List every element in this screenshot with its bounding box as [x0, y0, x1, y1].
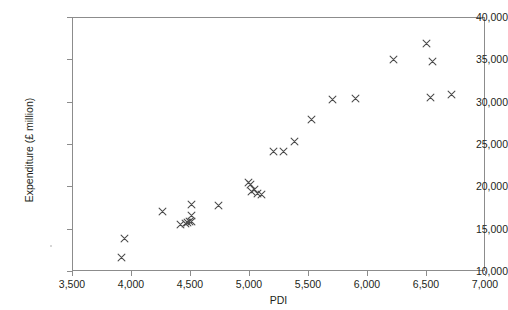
y-axis-tick-label: 10,000: [446, 266, 508, 277]
data-point-marker: [187, 211, 196, 220]
data-point-marker: [250, 185, 259, 194]
y-axis-tick: [67, 186, 72, 187]
y-axis-tick: [67, 144, 72, 145]
x-axis-tick-label: 5,500: [295, 279, 321, 290]
x-axis-tick-label: 7,000: [472, 279, 498, 290]
data-point-marker: [246, 180, 255, 189]
data-point-marker: [290, 137, 299, 146]
x-axis-tick: [426, 271, 427, 276]
y-axis-tick-label: 30,000: [446, 96, 508, 107]
data-point-marker: [187, 217, 196, 226]
y-axis-title: Expenditure (£ million): [23, 60, 35, 240]
y-axis-tick: [67, 102, 72, 103]
x-axis-tick-label: 4,000: [118, 279, 144, 290]
y-axis-tick-label: 35,000: [446, 54, 508, 65]
x-axis-tick: [72, 271, 73, 276]
data-point-marker: [183, 218, 192, 227]
x-axis-tick: [308, 271, 309, 276]
data-point-marker: [426, 93, 435, 102]
x-axis-tick-label: 4,500: [177, 279, 203, 290]
plot-area: [72, 17, 485, 271]
data-point-marker: [351, 94, 360, 103]
data-point-marker: [214, 201, 223, 210]
data-point-marker: [247, 187, 256, 196]
scatter-chart-figure: Expenditure (£ million) PDI 10,00015,000…: [0, 0, 508, 310]
y-axis-tick: [67, 229, 72, 230]
x-axis-tick-label: 3,500: [59, 279, 85, 290]
data-point-marker: [428, 57, 437, 66]
data-point-marker: [181, 219, 190, 228]
data-point-marker: [307, 115, 316, 124]
y-axis-tick: [67, 17, 72, 18]
x-axis-tick: [485, 271, 486, 276]
data-point-marker: [120, 234, 129, 243]
x-axis-tick: [249, 271, 250, 276]
data-point-marker: [158, 207, 167, 216]
y-axis-tick-label: 20,000: [446, 181, 508, 192]
data-point-marker: [269, 147, 278, 156]
x-axis-tick: [190, 271, 191, 276]
data-point-marker: [328, 95, 337, 104]
x-axis-tick-label: 6,500: [413, 279, 439, 290]
data-point-marker: [185, 217, 194, 226]
y-axis-tick-label: 15,000: [446, 223, 508, 234]
data-point-marker: [279, 147, 288, 156]
data-point-marker: [176, 220, 185, 229]
data-point-marker: [244, 178, 253, 187]
y-axis-tick-label: 25,000: [446, 139, 508, 150]
data-point-marker: [422, 39, 431, 48]
x-axis-tick: [367, 271, 368, 276]
data-point-marker: [187, 200, 196, 209]
data-point-marker: [253, 189, 262, 198]
x-axis-tick: [131, 271, 132, 276]
data-point-marker: [389, 55, 398, 64]
x-axis-tick-label: 6,000: [354, 279, 380, 290]
y-axis-tick: [67, 59, 72, 60]
data-point-marker: [117, 253, 126, 262]
data-point-marker: [257, 190, 266, 199]
x-axis-title: PDI: [72, 294, 485, 306]
y-axis-tick-label: 40,000: [446, 12, 508, 23]
x-axis-tick-label: 5,000: [236, 279, 262, 290]
stray-speck: [50, 245, 52, 247]
